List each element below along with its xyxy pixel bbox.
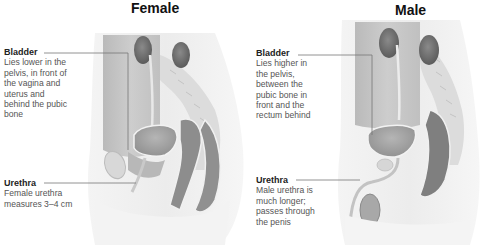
male-title: Male <box>395 2 426 18</box>
male-urethra-label: Urethra Male urethra is much longer; pas… <box>256 175 336 227</box>
male-figure <box>338 20 480 245</box>
female-title: Female <box>131 0 179 16</box>
male-bladder-label: Bladder Lies higher in the pelvis, betwe… <box>256 48 336 121</box>
male-kidney-right <box>419 35 439 65</box>
female-bladder-label: Bladder Lies lower in the pelvis, in fro… <box>4 47 84 120</box>
female-bladder <box>134 125 177 156</box>
female-urethra-label: Urethra Female urethra measures 3–4 cm <box>4 178 94 209</box>
male-bladder-description: Lies higher in the pelvis, between the p… <box>256 58 336 120</box>
male-urethra-heading: Urethra <box>256 175 336 185</box>
female-figure <box>88 33 244 245</box>
female-bladder-heading: Bladder <box>4 47 84 57</box>
male-urethra-description: Male urethra is much longer; passes thro… <box>256 185 336 227</box>
male-kidney-left <box>379 28 399 58</box>
female-bladder-description: Lies lower in the pelvis, in front of th… <box>4 57 84 119</box>
male-bladder-heading: Bladder <box>256 48 336 58</box>
female-urethra-description: Female urethra measures 3–4 cm <box>4 188 94 209</box>
female-kidney-right <box>172 42 190 68</box>
female-urethra-heading: Urethra <box>4 178 94 188</box>
